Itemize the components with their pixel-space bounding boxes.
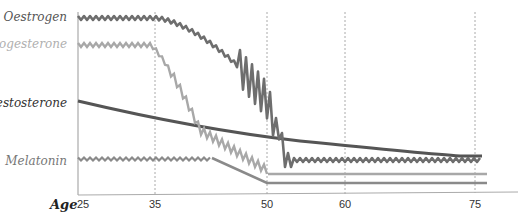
x-axis-label: Age — [50, 197, 77, 212]
tick-25: 25 — [77, 198, 89, 210]
testosterone-line — [78, 101, 482, 156]
label-testosterone: Testosterone — [0, 96, 67, 110]
tick-35: 35 — [149, 198, 161, 210]
tick-60: 60 — [339, 198, 351, 210]
gridlines — [155, 12, 475, 195]
label-melatonin: Melatonin — [5, 154, 67, 168]
label-oestrogen: Oestrogen — [4, 10, 67, 24]
x-axis — [78, 192, 518, 195]
oestrogen-line — [78, 16, 480, 167]
melatonin-line — [78, 158, 210, 161]
label-progesterone: Progesterone — [0, 37, 67, 51]
tick-75: 75 — [469, 198, 481, 210]
hormone-chart — [0, 0, 523, 221]
tick-50: 50 — [261, 198, 273, 210]
